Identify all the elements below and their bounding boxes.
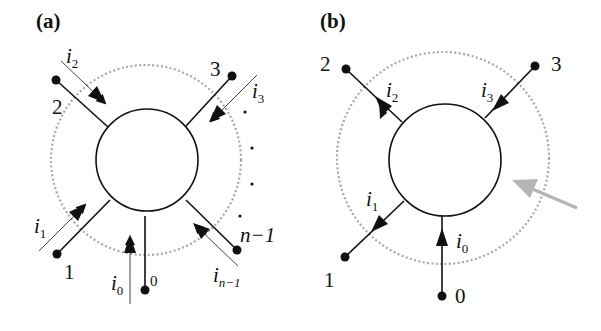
endpoint-0 <box>438 292 447 301</box>
panel-a-label: (a) <box>36 9 61 33</box>
current-label-i1: i1 <box>34 214 46 241</box>
pointer-arrow <box>512 179 577 208</box>
endpoint-1 <box>341 253 350 262</box>
arrowhead-i2 <box>88 86 105 103</box>
current-label-i0: i0 <box>111 271 123 298</box>
endpoint-2 <box>342 65 351 74</box>
current-label-i3: i3 <box>252 79 264 106</box>
diagram-canvas: (a) <box>0 0 601 331</box>
ellipsis-dots <box>238 110 253 217</box>
node-label-0: 0 <box>455 284 466 308</box>
current-label-in-1: in−1 <box>213 263 241 290</box>
current-label-i2: i2 <box>66 44 78 71</box>
vertex-circle <box>389 104 501 216</box>
arrowhead-i0 <box>124 235 136 253</box>
vertex-circle <box>96 109 198 211</box>
current-label-i1: i1 <box>366 187 378 214</box>
current-label-i0: i0 <box>456 229 468 256</box>
panel-b: (b) <box>320 9 577 308</box>
arrowhead-i0 <box>436 228 448 246</box>
endpoint-0 <box>141 286 150 295</box>
panel-b-label: (b) <box>320 9 346 33</box>
node-label-2: 2 <box>320 52 331 76</box>
leg-2 <box>56 80 108 127</box>
endpoint-2 <box>52 76 61 85</box>
leg-3 <box>186 76 232 126</box>
node-label-0: 0 <box>150 273 158 289</box>
arrowhead-i3 <box>209 105 226 122</box>
node-label-2: 2 <box>52 95 63 119</box>
current-label-i2: i2 <box>386 78 398 105</box>
node-label-3: 3 <box>210 57 221 81</box>
endpoint-3 <box>531 62 540 71</box>
node-label-n-1: n−1 <box>240 223 275 247</box>
endpoint-3 <box>228 72 237 81</box>
current-label-i3: i3 <box>481 78 493 105</box>
panel-a: (a) <box>34 9 275 304</box>
node-label-1: 1 <box>324 268 335 292</box>
node-label-3: 3 <box>551 52 562 76</box>
node-label-1: 1 <box>64 260 75 284</box>
endpoint-1 <box>53 250 62 259</box>
